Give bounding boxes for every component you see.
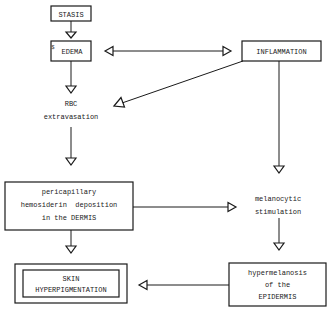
node-edema-marker: $	[52, 45, 55, 51]
edge-pericapillary-melanocytic	[133, 203, 236, 212]
node-hypermelanosis-line-2: of the	[265, 281, 290, 289]
edge-melanocytic-hypermelanosis	[274, 218, 284, 250]
node-inflammation: INFLAMMATION	[242, 41, 321, 61]
node-pericapillary-line-2: hemosiderin deposition	[21, 201, 118, 209]
node-skin-line-1: SKIN	[63, 275, 80, 283]
node-rbc-line-2: extravasation	[44, 113, 99, 121]
node-hypermelanosis-line-1: hypermelanosis	[248, 269, 307, 277]
edge-edema-rbc	[66, 61, 76, 93]
edge-inflammation-melanocytic	[274, 61, 284, 173]
node-melanocytic-line-1: melanocytic	[255, 195, 301, 203]
edge-edema-inflammation	[105, 47, 231, 56]
edge-stasis-edema	[66, 21, 76, 38]
node-melanocytic: melanocytic stimulation	[255, 195, 301, 216]
node-skin-line-2: HYPERPIGMENTATION	[35, 286, 106, 294]
node-rbc-line-1: RBC	[65, 100, 78, 108]
node-pericapillary-line-3: in the DERMIS	[42, 214, 97, 222]
node-hypermelanosis-line-3: EPIDERMIS	[259, 293, 297, 301]
edge-rbc-pericapillary	[66, 127, 76, 165]
node-rbc: RBC extravasation	[44, 100, 99, 121]
node-edema: $ EDEMA	[51, 41, 91, 61]
node-hypermelanosis: hypermelanosis of the EPIDERMIS	[229, 263, 326, 306]
node-stasis: STASIS	[51, 6, 91, 21]
node-inflammation-label: INFLAMMATION	[256, 48, 306, 56]
node-stasis-label: STASIS	[58, 11, 83, 19]
flow-diagram: STASIS $ EDEMA INFLAMMATION RBC extravas…	[0, 0, 334, 312]
edge-pericapillary-skin	[66, 230, 76, 253]
edge-hypermelanosis-skin	[139, 281, 229, 290]
edge-inflammation-rbc	[114, 61, 243, 107]
node-pericapillary: pericapillary hemosiderin deposition in …	[5, 182, 133, 230]
node-melanocytic-line-2: stimulation	[255, 208, 301, 216]
node-edema-label: EDEMA	[61, 48, 83, 56]
node-pericapillary-line-1: pericapillary	[42, 188, 97, 196]
node-skin-hyperpigmentation: SKIN HYPERPIGMENTATION	[15, 264, 127, 303]
